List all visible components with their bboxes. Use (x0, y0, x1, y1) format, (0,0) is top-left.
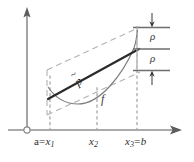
x-tick-label-1: a=x1 (34, 136, 55, 149)
x-tick-label-2: x2 (89, 136, 98, 149)
x-tick-3-suffix: b (141, 135, 147, 147)
approximation-line-p (48, 49, 139, 99)
rho-lower-label: ρ (150, 53, 155, 64)
function-label: f (101, 93, 104, 105)
rho-lower-arrow (149, 71, 154, 85)
y-axis (23, 7, 30, 130)
function-curve-f (48, 30, 138, 104)
lower-tolerance-band (47, 72, 140, 115)
x-tick-2-sub: 2 (94, 140, 98, 149)
origin-marker (24, 127, 30, 133)
x-tick-label-3: x3=b (125, 136, 146, 149)
x-axis (8, 125, 182, 134)
math-figure: ρ ρ ~ p f a=x1 x2 x3=b (0, 0, 194, 162)
x-tick-1-sub: 1 (51, 140, 55, 149)
rho-upper-arrow (149, 13, 154, 27)
rho-upper-label: ρ (150, 31, 155, 42)
